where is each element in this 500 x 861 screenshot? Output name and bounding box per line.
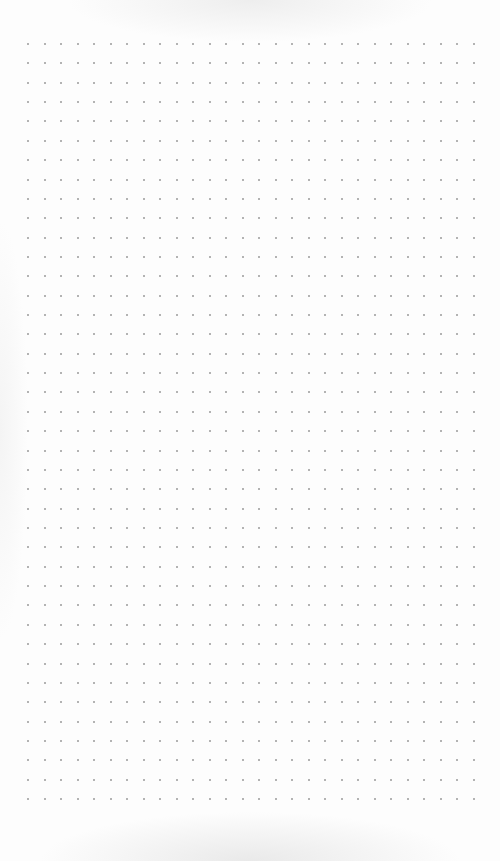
grid-dot xyxy=(27,82,29,84)
grid-dot xyxy=(275,469,277,471)
grid-dot xyxy=(225,217,227,219)
grid-dot xyxy=(93,198,95,200)
grid-dot xyxy=(473,701,475,703)
grid-dot xyxy=(324,82,326,84)
grid-dot xyxy=(77,643,79,645)
grid-dot xyxy=(110,450,112,452)
grid-dot xyxy=(407,217,409,219)
grid-dot xyxy=(60,43,62,45)
grid-dot xyxy=(308,721,310,723)
grid-dot xyxy=(324,256,326,258)
grid-dot xyxy=(341,275,343,277)
grid-dot xyxy=(456,721,458,723)
grid-dot xyxy=(27,798,29,800)
grid-dot xyxy=(341,508,343,510)
grid-dot xyxy=(126,469,128,471)
grid-dot xyxy=(209,450,211,452)
grid-dot xyxy=(291,740,293,742)
grid-dot xyxy=(324,62,326,64)
grid-dot xyxy=(93,295,95,297)
grid-dot xyxy=(159,604,161,606)
grid-dot xyxy=(390,508,392,510)
grid-dot xyxy=(473,256,475,258)
grid-dot xyxy=(176,566,178,568)
grid-dot xyxy=(225,488,227,490)
grid-dot xyxy=(440,159,442,161)
grid-dot xyxy=(324,624,326,626)
grid-dot xyxy=(407,295,409,297)
grid-dot xyxy=(143,527,145,529)
grid-dot xyxy=(209,430,211,432)
grid-dot xyxy=(390,82,392,84)
grid-dot xyxy=(390,798,392,800)
grid-dot xyxy=(324,295,326,297)
grid-dot xyxy=(209,721,211,723)
grid-dot xyxy=(291,508,293,510)
grid-dot xyxy=(357,217,359,219)
grid-dot xyxy=(456,62,458,64)
grid-dot xyxy=(357,62,359,64)
grid-dot xyxy=(374,682,376,684)
grid-dot xyxy=(275,527,277,529)
grid-dot xyxy=(374,566,376,568)
grid-dot xyxy=(341,488,343,490)
grid-dot xyxy=(390,759,392,761)
grid-dot xyxy=(407,256,409,258)
grid-dot xyxy=(341,82,343,84)
grid-dot xyxy=(423,663,425,665)
grid-dot xyxy=(341,759,343,761)
grid-dot xyxy=(440,624,442,626)
grid-dot xyxy=(374,62,376,64)
grid-dot xyxy=(93,469,95,471)
grid-dot xyxy=(440,120,442,122)
grid-dot xyxy=(390,353,392,355)
grid-dot xyxy=(143,256,145,258)
grid-dot xyxy=(407,314,409,316)
grid-dot xyxy=(242,643,244,645)
grid-dot xyxy=(324,450,326,452)
grid-dot xyxy=(110,488,112,490)
grid-dot xyxy=(60,798,62,800)
grid-dot xyxy=(275,314,277,316)
grid-dot xyxy=(143,333,145,335)
grid-dot xyxy=(93,353,95,355)
grid-dot xyxy=(192,256,194,258)
grid-dot xyxy=(225,450,227,452)
grid-dot xyxy=(242,295,244,297)
grid-dot xyxy=(159,759,161,761)
grid-dot xyxy=(423,740,425,742)
grid-dot xyxy=(456,469,458,471)
grid-dot xyxy=(110,82,112,84)
grid-dot xyxy=(473,82,475,84)
grid-dot xyxy=(308,391,310,393)
grid-dot xyxy=(27,721,29,723)
grid-dot xyxy=(407,159,409,161)
grid-dot xyxy=(60,721,62,723)
grid-dot xyxy=(242,585,244,587)
grid-dot xyxy=(258,759,260,761)
grid-dot xyxy=(275,566,277,568)
grid-dot xyxy=(423,624,425,626)
grid-dot xyxy=(357,275,359,277)
grid-dot xyxy=(473,159,475,161)
grid-dot xyxy=(440,101,442,103)
grid-dot xyxy=(176,430,178,432)
grid-dot xyxy=(275,237,277,239)
grid-dot xyxy=(242,43,244,45)
grid-dot xyxy=(176,450,178,452)
grid-dot xyxy=(440,314,442,316)
grid-dot xyxy=(374,450,376,452)
grid-dot xyxy=(324,604,326,606)
grid-dot xyxy=(275,604,277,606)
grid-dot xyxy=(456,372,458,374)
grid-dot xyxy=(27,217,29,219)
grid-dot xyxy=(225,643,227,645)
grid-dot xyxy=(291,663,293,665)
grid-dot xyxy=(176,488,178,490)
grid-dot xyxy=(456,391,458,393)
grid-dot xyxy=(192,604,194,606)
grid-dot xyxy=(390,450,392,452)
grid-dot xyxy=(440,411,442,413)
grid-dot xyxy=(473,120,475,122)
grid-dot xyxy=(275,101,277,103)
